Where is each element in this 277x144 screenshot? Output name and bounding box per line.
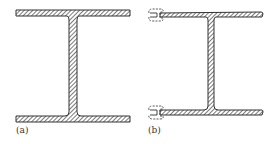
panel-a-ibeam [16, 10, 130, 122]
diagram-canvas: (a) (b) [0, 0, 277, 144]
panel-b-label: (b) [148, 125, 161, 135]
panel-a-label: (a) [16, 125, 28, 135]
ibeam-a-section [16, 10, 130, 122]
ibeam-b-section [160, 12, 263, 115]
panel-b-ibeam [149, 9, 263, 119]
